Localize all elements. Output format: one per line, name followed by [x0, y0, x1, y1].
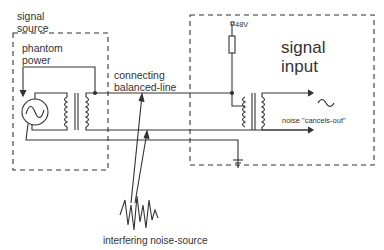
source-title-1: signal: [17, 10, 44, 22]
noise-source-icon: [120, 196, 158, 230]
output-signal-icon: [318, 100, 334, 107]
line-label-1: connecting: [114, 69, 165, 81]
line-label-2: balanced-line: [114, 81, 177, 93]
input-title-2: input: [281, 57, 318, 76]
source-transformer-icon: [32, 93, 95, 130]
phantom-resistor-icon: [229, 22, 235, 93]
voltage-label: 48V: [235, 20, 248, 29]
balanced-line-ground: [26, 124, 238, 168]
noise-source-label: interfering noise-source: [103, 235, 208, 246]
phantom-label-2: power: [22, 54, 51, 66]
balanced-line-diagram: signal source phantom power connecting b…: [0, 0, 384, 250]
phantom-label-1: phantom: [22, 42, 63, 54]
input-title-1: signal: [281, 38, 325, 57]
noise-cancel-label: noise "cancels-out": [282, 116, 346, 125]
source-title-2: source: [17, 22, 49, 34]
